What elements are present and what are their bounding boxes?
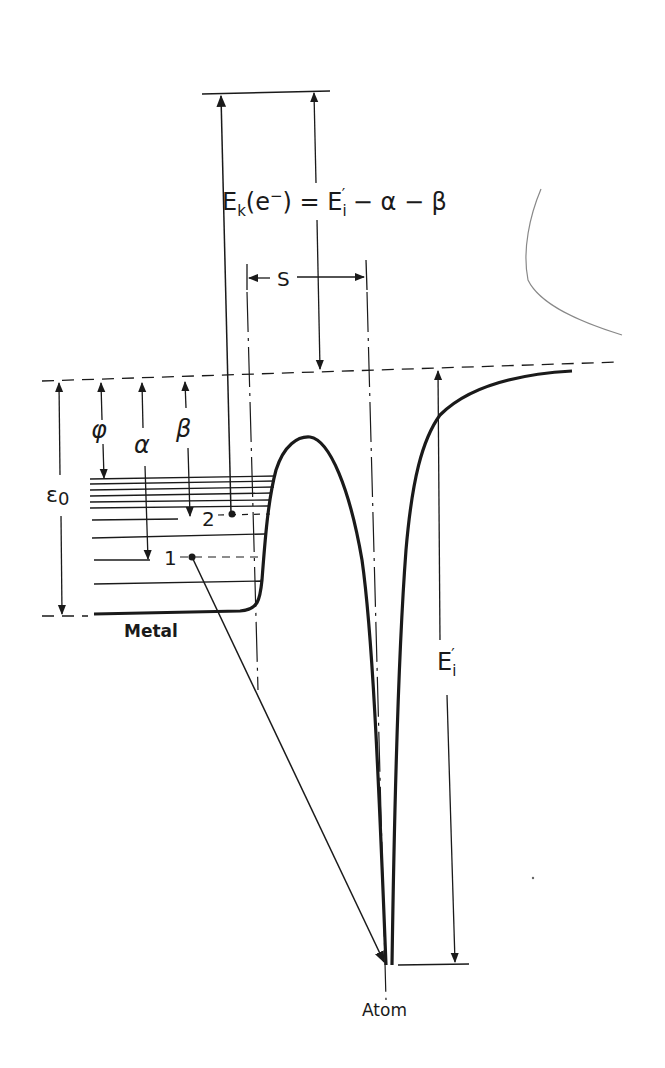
energy-diagram: Ek(e−) = Ei′ − α − β S ε0 φ α β 2 1 <box>0 0 665 1068</box>
level-1-label: 1 <box>164 546 177 570</box>
beta-arrow-up <box>185 382 186 408</box>
ek-arrow-down <box>317 220 320 369</box>
alpha-label: α <box>134 431 150 459</box>
atom-ground-line <box>398 964 469 965</box>
metal-levels <box>90 476 276 584</box>
metal-surface-axis <box>247 292 258 690</box>
level-2-dot <box>229 511 236 518</box>
phi-label: φ <box>91 416 107 444</box>
transition-arrow <box>192 557 384 962</box>
level-2-dash <box>218 514 270 515</box>
alpha-arrow-up <box>142 383 143 428</box>
ek-arrow-up <box>314 93 316 183</box>
phi-arrow-down <box>103 444 104 478</box>
emission-arrow <box>221 96 231 513</box>
epsilon-arrow-up <box>59 383 60 475</box>
alpha-arrow-down <box>145 466 148 559</box>
potential-curve <box>94 371 572 965</box>
beta-label: β <box>175 415 191 443</box>
ei-label: Ei′ <box>437 646 456 680</box>
s-label: S <box>277 267 290 291</box>
phi-arrow-up <box>101 383 102 420</box>
metal-label: Metal <box>124 621 178 641</box>
epsilon-arrow-down <box>61 516 62 614</box>
ek-equation: Ek(e−) = Ei′ − α − β <box>222 186 447 220</box>
s-right-tick <box>366 260 367 290</box>
ei-arrow-up <box>438 371 440 640</box>
level-2-label: 2 <box>202 507 215 531</box>
ei-arrow-down <box>447 695 455 962</box>
stray-mark <box>526 189 622 335</box>
stray-dot <box>532 877 534 879</box>
epsilon-label: ε0 <box>46 482 69 509</box>
vacuum-level-line <box>42 362 620 381</box>
top-reference-line <box>202 91 330 94</box>
atom-label: Atom <box>362 1000 407 1020</box>
